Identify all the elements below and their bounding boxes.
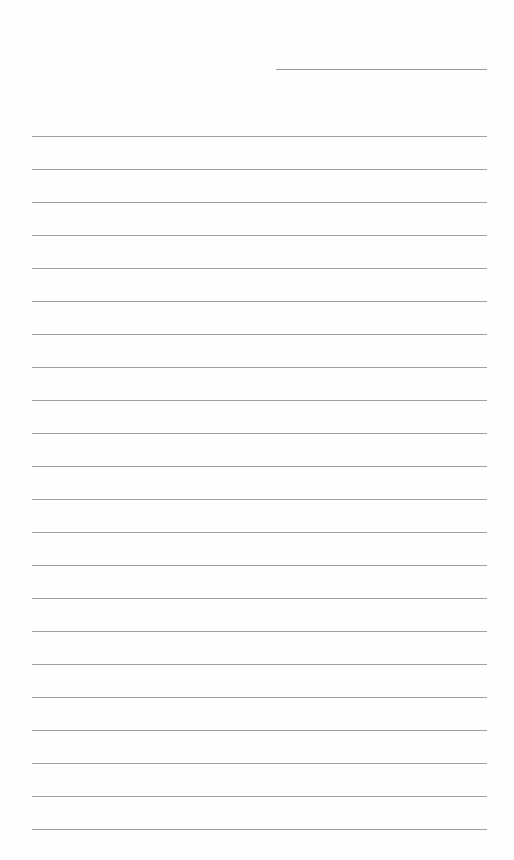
ruled-line (32, 202, 487, 203)
ruled-line (32, 334, 487, 335)
ruled-line (32, 796, 487, 797)
ruled-line (32, 235, 487, 236)
ruled-line (32, 136, 487, 137)
ruled-line (32, 466, 487, 467)
ruled-line (32, 400, 487, 401)
header-name-line (276, 69, 487, 70)
ruled-line (32, 697, 487, 698)
ruled-line (32, 268, 487, 269)
ruled-line (32, 730, 487, 731)
ruled-line (32, 664, 487, 665)
ruled-line (32, 499, 487, 500)
ruled-line (32, 169, 487, 170)
ruled-line (32, 532, 487, 533)
ruled-line (32, 763, 487, 764)
ruled-line (32, 598, 487, 599)
ruled-line (32, 631, 487, 632)
ruled-line (32, 367, 487, 368)
lined-paper-page (0, 0, 514, 860)
ruled-line (32, 829, 487, 830)
ruled-line (32, 433, 487, 434)
ruled-line (32, 301, 487, 302)
ruled-line (32, 565, 487, 566)
